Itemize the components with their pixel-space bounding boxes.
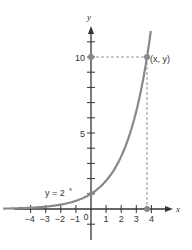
function-label: y = 2 x (45, 186, 72, 198)
x-tick-label: −4 (24, 214, 34, 224)
x-axis-arrow-icon (165, 206, 173, 212)
x-tick-label: 2 (119, 214, 124, 224)
x-intercept-point (144, 206, 150, 212)
tick-labels: −4−3−2−11234510 (24, 53, 153, 225)
exponential-graph: −4−3−2−11234510 y x (x, y) 0 y = 2 x (0, 0, 192, 250)
x-tick-label: −2 (55, 214, 65, 224)
x-axis-label: x (175, 204, 180, 214)
x-tick-label: −1 (70, 214, 80, 224)
y-tick-label: 10 (75, 53, 85, 63)
x-tick-label: 4 (149, 214, 154, 224)
origin-label: 0 (83, 212, 88, 222)
y-axis-label: y (86, 12, 91, 22)
function-label-exponent: x (69, 186, 72, 192)
x-tick-label: 3 (134, 214, 139, 224)
y-tick-label: 5 (80, 129, 85, 139)
x-tick-label: −3 (40, 214, 50, 224)
x-tick-label: 1 (104, 214, 109, 224)
y-axis-arrow-icon (88, 26, 94, 34)
function-label-base: y = 2 (45, 188, 65, 198)
y-intercept-point (89, 192, 93, 196)
y10-point (88, 54, 94, 60)
point-label: (x, y) (150, 54, 170, 64)
